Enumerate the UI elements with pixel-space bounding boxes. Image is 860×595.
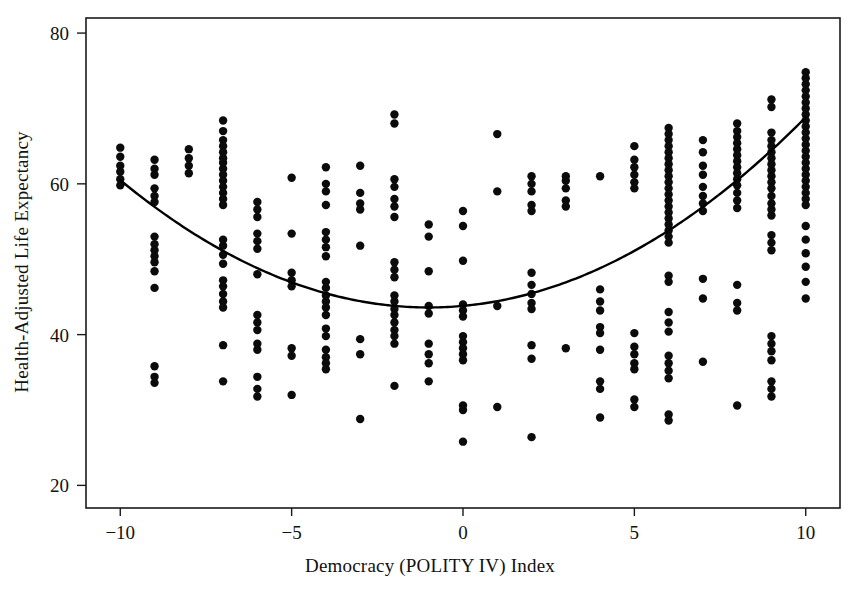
data-point [356,162,364,170]
data-point [630,403,638,411]
data-point [630,184,638,192]
data-point [664,352,672,360]
x-tick-label: 5 [630,522,640,543]
data-point [322,252,330,260]
data-point [630,156,638,164]
data-point [699,183,707,191]
data-point [664,367,672,375]
data-point [596,377,604,385]
data-point [425,309,433,317]
data-point [527,281,535,289]
data-point [767,238,775,246]
data-point [527,187,535,195]
data-point [253,270,261,278]
data-point [390,318,398,326]
data-point [150,362,158,370]
data-point [390,297,398,305]
data-point [390,339,398,347]
data-point [150,379,158,387]
data-point [664,327,672,335]
data-point [630,171,638,179]
data-point [733,281,741,289]
data-point [596,413,604,421]
data-point [630,163,638,171]
data-point [287,352,295,360]
data-point [150,184,158,192]
data-point [253,237,261,245]
data-point [630,395,638,403]
data-point [459,437,467,445]
data-point [116,168,124,176]
data-point [767,211,775,219]
data-point [699,136,707,144]
data-points [116,68,810,446]
data-point [802,249,810,257]
data-point [322,235,330,243]
x-tick-label: −10 [105,522,135,543]
data-point [287,344,295,352]
data-point [767,377,775,385]
x-tick-label: −5 [282,522,302,543]
data-point [253,373,261,381]
data-point [150,156,158,164]
data-point [390,202,398,210]
data-point [630,329,638,337]
data-point [527,207,535,215]
data-point [253,198,261,206]
data-point [699,171,707,179]
data-point [767,392,775,400]
data-point [562,184,570,192]
data-point [493,130,501,138]
data-point [425,220,433,228]
data-point [390,213,398,221]
data-point [630,342,638,350]
data-point [390,273,398,281]
data-point [390,175,398,183]
data-point [425,232,433,240]
data-point [425,302,433,310]
data-point [733,196,741,204]
data-point [767,385,775,393]
data-point [527,305,535,313]
data-point [596,329,604,337]
y-tick-label: 20 [50,475,69,496]
data-point [253,326,261,334]
data-point [356,415,364,423]
data-point [287,174,295,182]
data-point [425,339,433,347]
data-point [390,311,398,319]
data-point [287,269,295,277]
data-point [767,231,775,239]
data-point [253,205,261,213]
data-point [425,359,433,367]
data-point [767,339,775,347]
data-point [527,433,535,441]
data-point [562,177,570,185]
data-point [459,257,467,265]
data-point [767,246,775,254]
data-point [596,285,604,293]
data-point [219,116,227,124]
data-point [664,278,672,286]
data-point [459,222,467,230]
data-point [390,382,398,390]
data-point [253,244,261,252]
data-point [219,282,227,290]
data-point [459,356,467,364]
data-point [322,243,330,251]
data-point [664,308,672,316]
data-point [493,187,501,195]
data-point [459,312,467,320]
data-point [493,403,501,411]
scatter-plot-svg: −10−50510 20406080 Democracy (POLITY IV)… [0,0,860,595]
data-point [459,207,467,215]
data-point [219,127,227,135]
data-point [356,335,364,343]
x-tick-label: 0 [458,522,468,543]
data-point [767,347,775,355]
data-point [390,119,398,127]
data-point [733,306,741,314]
data-point [287,391,295,399]
data-point [767,95,775,103]
data-point [664,238,672,246]
